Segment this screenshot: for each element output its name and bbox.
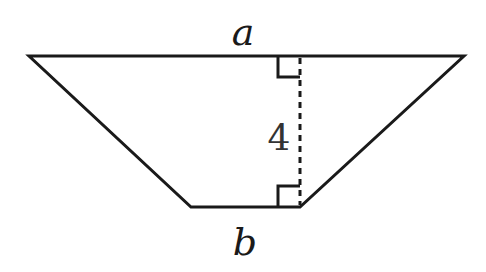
label-bottom-base: b bbox=[233, 220, 257, 264]
trapezoid-outline bbox=[29, 56, 464, 207]
trapezoid-shape bbox=[29, 56, 464, 207]
trapezoid-diagram: a b 4 bbox=[0, 0, 486, 272]
right-angle-mark-top bbox=[278, 56, 300, 77]
label-top-base: a bbox=[232, 10, 255, 54]
label-height: 4 bbox=[268, 117, 291, 158]
right-angle-mark-bottom bbox=[278, 186, 300, 207]
